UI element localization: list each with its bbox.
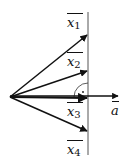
- label-x4: x4: [67, 143, 81, 158]
- label-x1-sub: 1: [74, 20, 80, 31]
- vector-diagram: x1 x2 x3 x4 a: [0, 0, 127, 163]
- diagram-canvas: [0, 0, 127, 163]
- label-x3-sub: 3: [74, 109, 80, 120]
- label-x4-sub: 4: [74, 147, 80, 158]
- label-x2-sub: 2: [74, 59, 80, 70]
- label-a: a: [111, 104, 119, 117]
- right-angle-arc: [74, 83, 88, 97]
- label-a-base: a: [111, 103, 119, 118]
- vector-x3-arrow: [10, 97, 87, 98]
- label-x3: x3: [67, 105, 81, 120]
- label-x2: x2: [67, 55, 81, 70]
- label-x1: x1: [67, 16, 81, 31]
- vector-x2-arrow: [10, 71, 87, 97]
- right-angle-dot: [82, 91, 84, 93]
